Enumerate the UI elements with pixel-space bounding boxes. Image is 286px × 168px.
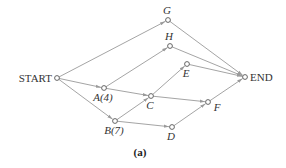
edge-start-to-g [59, 21, 165, 77]
edge-start-to-a [59, 78, 101, 87]
node-circle-icon [55, 76, 60, 81]
edge-d-to-f [174, 104, 206, 126]
node-h: H [164, 30, 174, 48]
edge-c-to-f [153, 96, 205, 101]
node-circle-icon [170, 125, 175, 130]
node-label: F [213, 101, 221, 113]
node-start: START [19, 72, 60, 84]
node-circle-icon [243, 75, 248, 80]
node-label: D [166, 130, 175, 142]
node-f: F [206, 100, 221, 113]
node-circle-icon [102, 86, 107, 91]
edge-e-to-end [189, 65, 242, 77]
node-circle-icon [168, 44, 173, 49]
node-label: END [250, 71, 273, 83]
edge-f-to-end [210, 79, 243, 101]
figure-caption: (a) [134, 146, 147, 159]
edge-b-to-c [117, 98, 149, 120]
node-circle-icon [113, 119, 118, 124]
edge-a-to-h [106, 48, 168, 87]
node-g: G [163, 4, 171, 22]
node-end: END [243, 71, 273, 83]
node-circle-icon [185, 62, 190, 67]
edge-c-to-e [153, 66, 185, 94]
node-label: B(7) [104, 124, 124, 137]
network-diagram: STARTGHEA(4)CFB(7)DEND (a) [0, 0, 286, 168]
node-c: C [146, 94, 154, 111]
node-a: A(4) [92, 86, 113, 104]
node-d: D [166, 125, 175, 142]
node-label: C [146, 99, 154, 111]
node-label: E [182, 67, 190, 79]
edge-b-to-d [117, 121, 169, 126]
node-circle-icon [206, 100, 211, 105]
node-label: START [19, 72, 53, 84]
node-circle-icon [149, 94, 154, 99]
node-circle-icon [166, 18, 171, 23]
node-label: H [164, 30, 174, 42]
edge-g-to-end [170, 21, 243, 75]
node-label: A(4) [92, 91, 113, 104]
node-label: G [163, 4, 171, 16]
node-e: E [182, 62, 190, 79]
